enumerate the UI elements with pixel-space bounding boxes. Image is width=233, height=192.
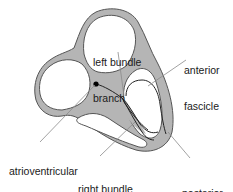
- label-posterior-fascicle: posterior fascicle: [182, 163, 223, 192]
- label-left-bundle-branch: left bundle branch: [93, 32, 141, 128]
- label-line: atrioventricular: [9, 165, 78, 177]
- label-line: right bundle: [78, 183, 133, 192]
- label-right-bundle-branch: right bundle branch: [78, 159, 133, 192]
- label-line: fascicle: [184, 100, 220, 112]
- label-atrioventricular-node: atrioventricular node: [9, 141, 78, 192]
- label-line: anterior: [184, 64, 220, 76]
- label-line: posterior: [182, 187, 223, 192]
- label-line: branch: [93, 92, 141, 104]
- conduction-diagram: left bundle branch anterior fascicle atr…: [0, 0, 233, 192]
- label-line: left bundle: [93, 56, 141, 68]
- label-anterior-fascicle: anterior fascicle: [184, 40, 220, 136]
